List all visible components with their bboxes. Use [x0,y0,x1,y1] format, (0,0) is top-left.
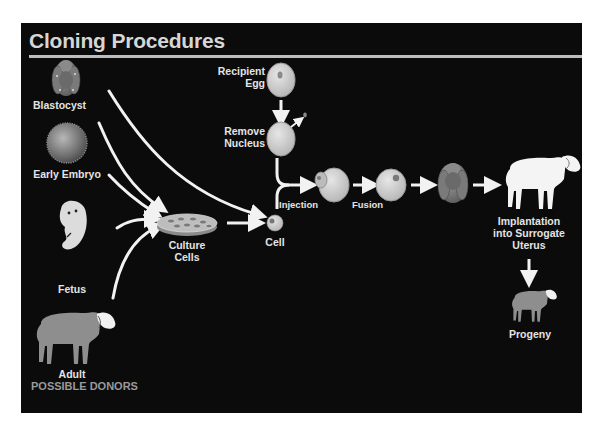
label-possible-donors: POSSIBLE DONORS [31,380,138,392]
label-recipient-egg: Recipient Egg [203,65,265,89]
label-fusion: Fusion [352,199,383,211]
donor-arrows [99,91,259,298]
remove-line2: Nucleus [203,137,265,149]
nucleus-out-arrow [291,120,300,127]
enucleated-egg-icon [267,122,295,156]
label-culture-cells: Culture Cells [161,239,213,263]
injected-egg-icon [315,168,349,202]
diagram-panel: Cloning Procedures [21,23,582,413]
early-embryo-icon [47,123,87,163]
implantation-line2: into Surrogate [487,227,571,239]
recipient-egg-icon [267,63,295,97]
culture-dish-icon [157,214,217,236]
label-early-embryo: Early Embryo [27,168,107,180]
label-remove-nucleus: Remove Nucleus [203,125,265,149]
fetus-icon [60,201,87,250]
recipient-line1: Recipient [203,65,265,77]
label-adult: Adult [47,368,97,380]
surrogate-sheep-icon [506,155,581,209]
label-progeny: Progeny [505,328,555,340]
developing-embryo-icon [438,163,468,203]
cell-icon [267,215,283,231]
removed-nucleus-icon [303,113,307,118]
remove-line1: Remove [203,125,265,137]
label-blastocyst: Blastocyst [33,99,83,111]
fused-egg-icon [376,169,406,201]
label-fetus: Fetus [47,283,97,295]
implantation-line1: Implantation [487,215,571,227]
label-implantation: Implantation into Surrogate Uterus [487,215,571,251]
implantation-line3: Uterus [487,239,571,251]
blastocyst-icon [52,60,80,96]
progeny-sheep-icon [512,290,557,322]
culture-line1: Culture [161,239,213,251]
adult-sheep-icon [37,312,116,364]
culture-line2: Cells [161,251,213,263]
label-injection: Injection [279,199,318,211]
label-cell: Cell [261,236,289,248]
recipient-line2: Egg [203,77,265,89]
